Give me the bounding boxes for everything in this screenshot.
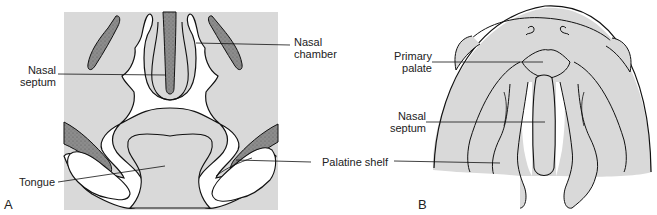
- label-primary-palate-line1: Primary: [380, 50, 432, 62]
- label-primary-palate-line2: palate: [380, 62, 432, 74]
- panel-letter-b: B: [418, 197, 427, 212]
- label-nasal-septum-a-line2: septum: [18, 76, 56, 88]
- label-nasal-septum-a-line1: Nasal: [18, 64, 56, 76]
- panel-b-illustration: [394, 6, 657, 215]
- label-nasal-septum-a: Nasal septum: [18, 64, 56, 88]
- panel-a-illustration: [58, 12, 311, 210]
- label-nasal-septum-b-line2: septum: [384, 122, 426, 134]
- label-nasal-chamber-line2: chamber: [294, 48, 337, 60]
- label-nasal-septum-b-line1: Nasal: [384, 110, 426, 122]
- label-nasal-septum-b: Nasal septum: [384, 110, 426, 134]
- label-nasal-chamber: Nasal chamber: [294, 36, 337, 60]
- label-palatine-shelf: Palatine shelf: [322, 156, 388, 168]
- label-primary-palate: Primary palate: [380, 50, 432, 74]
- panel-letter-a: A: [4, 197, 13, 212]
- figure-illustration: [0, 0, 657, 215]
- label-nasal-chamber-line1: Nasal: [294, 36, 337, 48]
- palate-development-figure: Nasal chamber Nasal septum Tongue A Pala…: [0, 0, 657, 215]
- label-tongue: Tongue: [19, 176, 55, 188]
